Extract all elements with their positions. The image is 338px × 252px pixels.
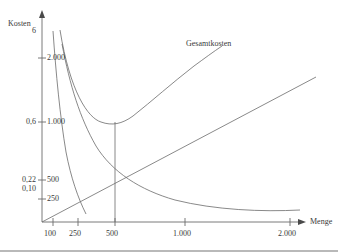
y-axis-arrowhead: [39, 10, 45, 18]
y-tick-label-left-0-6: 0,6: [8, 118, 36, 126]
chart-figure: Kosten Menge 6 0,6 0,22 0,10 2.000 1.000…: [0, 0, 338, 252]
series-line-variable-costs: [42, 77, 316, 222]
y-tick-label-left-0-10: 0,10: [4, 185, 36, 193]
x-tick-label-250: 250: [69, 230, 81, 238]
y-tick-label-500: 500: [47, 176, 59, 184]
y-tick-label-left-6: 6: [14, 27, 36, 35]
y-tick-label-left-0-22: 0,22: [4, 176, 36, 184]
series-annotation-gesamtkosten: Gesamtkosten: [186, 40, 231, 48]
y-tick-label-1000: 1.000: [47, 118, 65, 126]
series-curve-stueckkosten-1: [62, 44, 300, 211]
x-tick-label-1000: 1.000: [173, 230, 191, 238]
y-tick-label-250: 250: [47, 195, 59, 203]
y-tick-label-2000: 2.000: [47, 54, 65, 62]
x-tick-label-100: 100: [44, 230, 56, 238]
x-axis-title: Menge: [310, 218, 332, 226]
x-axis-arrowhead: [298, 219, 306, 225]
x-tick-label-500: 500: [106, 230, 118, 238]
x-tick-label-2000: 2.000: [278, 230, 296, 238]
chart-canvas: [0, 0, 338, 252]
